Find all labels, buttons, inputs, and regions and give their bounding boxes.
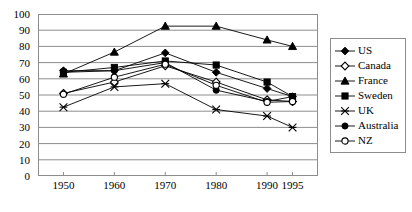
filled-square-icon [334, 89, 356, 103]
series-lines [38, 14, 318, 176]
x-axis: 195019601970198019901995 [38, 180, 318, 196]
y-tick-label: 30 [19, 122, 30, 133]
open-circle-icon [334, 134, 356, 148]
legend-label: US [356, 45, 372, 56]
data-point [263, 112, 271, 120]
legend-label: NZ [356, 135, 373, 146]
x-tick-label: 1995 [282, 180, 304, 191]
series-line [63, 63, 292, 102]
plot-area [38, 14, 318, 176]
legend-item-sweden[interactable]: Sweden [334, 88, 402, 103]
y-tick-label: 80 [19, 41, 30, 52]
legend-label: Canada [356, 60, 391, 71]
x-tick-label: 1950 [52, 180, 74, 191]
y-tick-label: 10 [19, 154, 30, 165]
y-tick-label: 90 [19, 25, 30, 36]
data-point [110, 48, 118, 55]
y-tick-label: 70 [19, 57, 30, 68]
data-point [264, 99, 270, 105]
data-point [161, 80, 169, 88]
legend-item-uk[interactable]: UK [334, 103, 402, 118]
data-point [212, 106, 220, 114]
data-point [264, 79, 270, 85]
x-tick-label: 1970 [154, 180, 176, 191]
legend-label: Sweden [356, 90, 393, 101]
data-point [263, 85, 271, 93]
data-point [161, 49, 169, 57]
filled-diamond-icon [334, 44, 356, 58]
filled-triangle-icon [334, 74, 356, 88]
data-point [60, 103, 68, 111]
legend-label: UK [356, 105, 374, 116]
series-us [60, 49, 297, 100]
x-tick-label: 1980 [205, 180, 227, 191]
data-point [289, 124, 297, 132]
legend: USCanadaFranceSwedenUKAustraliaNZ [330, 38, 406, 153]
legend-item-canada[interactable]: Canada [334, 58, 402, 73]
cross-icon [334, 104, 356, 118]
y-axis: 0102030405060708090100 [0, 14, 34, 176]
filled-circle-icon [334, 119, 356, 133]
legend-item-nz[interactable]: NZ [334, 133, 402, 148]
y-tick-label: 100 [14, 9, 31, 20]
series-nz [60, 61, 295, 105]
data-point [162, 61, 168, 67]
legend-item-us[interactable]: US [334, 43, 402, 58]
data-point [212, 68, 220, 76]
series-sweden [60, 58, 295, 100]
open-diamond-icon [334, 59, 356, 73]
legend-label: Australia [356, 120, 398, 131]
legend-label: France [356, 75, 388, 86]
data-point [60, 91, 66, 97]
series-line [63, 61, 292, 97]
legend-item-australia[interactable]: Australia [334, 118, 402, 133]
x-tick-label: 1960 [103, 180, 125, 191]
chart-container: 0102030405060708090100 19501960197019801… [0, 0, 412, 212]
data-point [111, 74, 117, 80]
series-line [63, 84, 292, 128]
y-tick-label: 50 [19, 90, 30, 101]
series-france [59, 22, 296, 77]
y-tick-label: 0 [25, 171, 31, 182]
data-point [289, 98, 295, 104]
x-tick-label: 1990 [256, 180, 278, 191]
series-uk [60, 80, 297, 131]
legend-item-france[interactable]: France [334, 73, 402, 88]
data-point [60, 69, 66, 75]
series-line [63, 26, 292, 74]
y-tick-label: 20 [19, 138, 30, 149]
y-tick-label: 40 [19, 106, 30, 117]
data-point [213, 82, 219, 88]
data-point [213, 62, 219, 68]
data-point [111, 68, 117, 74]
y-tick-label: 60 [19, 73, 30, 84]
